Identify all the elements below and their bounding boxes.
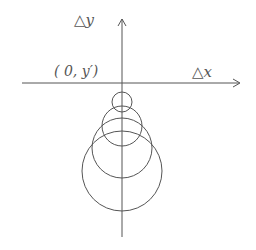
origin-point-label: ( 0, y′) (54, 63, 98, 79)
y-axis-label: △y (74, 11, 94, 29)
x-axis-label: △x (192, 63, 212, 81)
diagram-canvas (0, 0, 256, 250)
coordinate-diagram: △y ( 0, y′) △x (0, 0, 256, 250)
